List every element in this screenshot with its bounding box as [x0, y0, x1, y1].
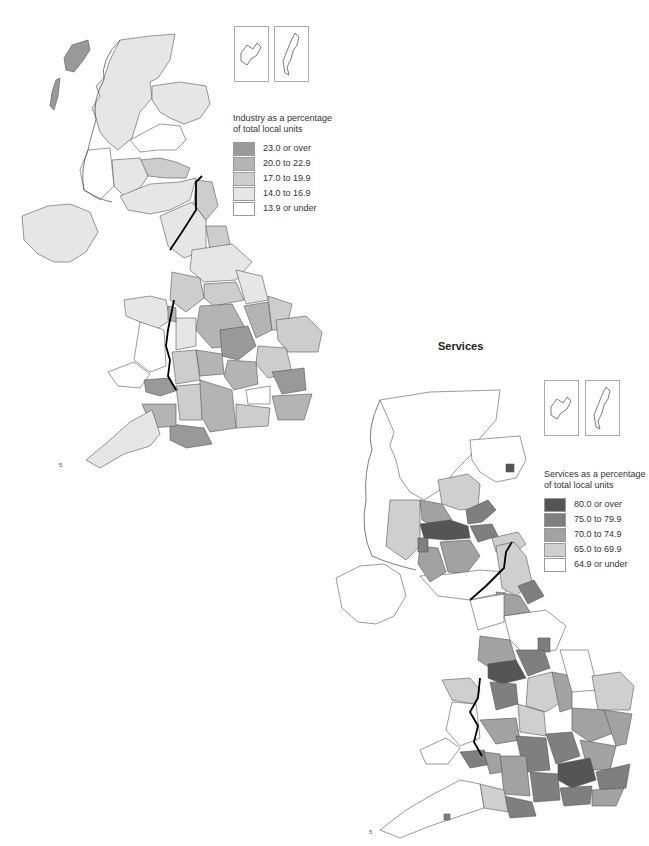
industry-legend: Industry as a percentage of total local … — [233, 113, 332, 216]
services-legend-title: Services as a percentage of total local … — [544, 469, 646, 491]
legend-class: 17.0 to 19.9 — [233, 171, 332, 186]
services-title: Services — [438, 340, 483, 352]
legend-class: 75.0 to 79.9 — [544, 512, 646, 527]
legend-swatch — [544, 543, 566, 557]
legend-swatch — [233, 157, 255, 171]
shetland-inset-industry — [274, 26, 309, 82]
legend-class: 13.9 or under — [233, 201, 332, 216]
legend-class: 23.0 or over — [233, 141, 332, 156]
legend-swatch — [544, 513, 566, 527]
legend-swatch — [233, 202, 255, 216]
services-legend: Services as a percentage of total local … — [544, 469, 646, 572]
legend-swatch — [544, 528, 566, 542]
legend-class: 64.9 or under — [544, 557, 646, 572]
orkney-inset-industry — [234, 26, 269, 82]
scilly-marker: 5 — [369, 829, 372, 835]
legend-swatch — [233, 142, 255, 156]
legend-class: 14.0 to 16.9 — [233, 186, 332, 201]
legend-class: 20.0 to 22.9 — [233, 156, 332, 171]
legend-class: 70.0 to 74.9 — [544, 527, 646, 542]
legend-class: 80.0 or over — [544, 497, 646, 512]
legend-swatch — [233, 172, 255, 186]
legend-swatch — [544, 558, 566, 572]
industry-legend-title: Industry as a percentage of total local … — [233, 113, 332, 135]
legend-swatch — [233, 187, 255, 201]
legend-class: 65.0 to 69.9 — [544, 542, 646, 557]
scilly-marker: 5 — [59, 462, 62, 468]
shetland-inset-services — [585, 380, 620, 436]
legend-swatch — [544, 498, 566, 512]
orkney-inset-services — [544, 380, 579, 436]
